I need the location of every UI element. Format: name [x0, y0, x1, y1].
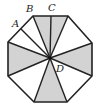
- label-a: A: [11, 18, 19, 29]
- ray-line: [50, 16, 51, 58]
- label-b: B: [25, 3, 33, 14]
- center-point-d: [48, 56, 51, 59]
- octagon-diagram: A B C D: [0, 0, 97, 108]
- label-c: C: [48, 2, 56, 13]
- label-d: D: [55, 63, 64, 74]
- shaded-triangle: [8, 42, 50, 76]
